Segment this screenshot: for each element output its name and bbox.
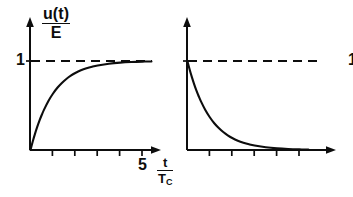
chart-panel-voltage: u(t) E 1 5 t TC bbox=[0, 0, 177, 197]
chart-canvas-voltage bbox=[0, 0, 177, 197]
chart-panel-current: i(t)R E 1 5 t TC bbox=[176, 0, 353, 197]
x-axis-label-denominator: TC bbox=[157, 171, 173, 185]
y-tick-label-one: 1 bbox=[16, 52, 25, 68]
x-axis-label-time: t TC bbox=[157, 156, 173, 185]
chart-canvas-current bbox=[176, 0, 353, 197]
y-axis-arrowhead bbox=[183, 17, 191, 27]
y-axis-label-numerator: u(t) bbox=[42, 6, 70, 24]
rc-transient-figure: u(t) E 1 5 t TC bbox=[0, 0, 353, 197]
y-axis-arrowhead bbox=[26, 17, 34, 27]
y-axis-label-denominator: E bbox=[42, 24, 70, 41]
x-axis-label-denominator-subscript: C bbox=[166, 177, 173, 187]
x-tick-label-five: 5 bbox=[138, 157, 147, 173]
x-axis-arrowhead bbox=[151, 146, 161, 154]
curve-discharging-current bbox=[187, 61, 308, 150]
y-axis-label-voltage: u(t) E bbox=[42, 6, 70, 41]
curve-charging-voltage bbox=[31, 61, 152, 150]
x-axis-label-denominator-base: T bbox=[158, 171, 166, 186]
y-tick-label-one: 1 bbox=[348, 52, 353, 68]
x-axis-label-numerator: t bbox=[157, 156, 173, 171]
x-axis-arrowhead bbox=[326, 146, 336, 154]
